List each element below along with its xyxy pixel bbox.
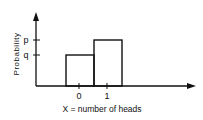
x-axis-label: X = number of heads <box>62 104 141 114</box>
xtick-label-0: 0 <box>76 91 81 101</box>
probability-bar-chart: p q Probability 0 1 X = number of heads <box>0 0 203 120</box>
bar-1 <box>94 40 122 86</box>
y-axis-arrow-icon <box>33 12 39 21</box>
x-axis-arrow-icon <box>187 83 196 89</box>
xtick-label-1: 1 <box>104 91 109 101</box>
ytick-label-p: p <box>23 35 28 45</box>
y-axis-label: Probability <box>12 33 21 76</box>
ytick-label-q: q <box>23 50 28 60</box>
bar-0 <box>66 55 94 86</box>
